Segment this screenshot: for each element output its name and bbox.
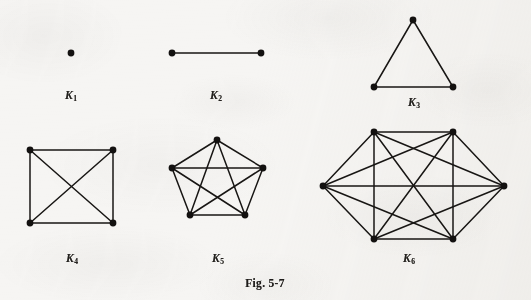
graph-vertex (27, 147, 34, 154)
graph-vertex (27, 220, 34, 227)
graph-label-subscript: 1 (73, 94, 77, 103)
complete-graph-k3-edges (374, 20, 453, 87)
graph-edge (374, 20, 413, 87)
graph-vertex (110, 220, 117, 227)
complete-graph-k1-label: K1 (65, 89, 77, 101)
graph-edge (172, 140, 217, 168)
complete-graph-k5 (169, 137, 267, 219)
graph-vertex (371, 236, 378, 243)
graph-edge (453, 132, 504, 186)
complete-graph-k5-vertices (169, 137, 267, 219)
complete-graph-k6-edges (323, 132, 504, 239)
graph-label-letter: K (212, 252, 220, 264)
complete-graph-k3-vertices (371, 17, 457, 91)
graph-vertex (187, 212, 194, 219)
complete-graph-k4 (27, 147, 117, 227)
graph-vertex (450, 84, 457, 91)
graph-edge (172, 168, 245, 215)
graph-edge (413, 20, 453, 87)
complete-graph-k5-label: K5 (212, 252, 224, 264)
graph-vertex (110, 147, 117, 154)
complete-graph-k6 (320, 129, 508, 243)
graph-edge (190, 140, 217, 215)
graph-vertex (169, 50, 176, 57)
graph-vertex (371, 84, 378, 91)
graph-label-subscript: 5 (220, 257, 224, 266)
graph-label-letter: K (65, 89, 73, 101)
graph-edge (323, 132, 374, 186)
graph-edge (323, 186, 374, 239)
graph-vertex (450, 236, 457, 243)
graph-label-subscript: 2 (218, 94, 222, 103)
graph-vertex (320, 183, 327, 190)
graph-label-subscript: 4 (74, 257, 78, 266)
graph-vertex (371, 129, 378, 136)
graph-vertex (410, 17, 417, 24)
graph-label-subscript: 3 (416, 101, 420, 110)
complete-graph-k1-vertices (68, 50, 75, 57)
complete-graph-k1 (68, 50, 75, 57)
figure-canvas (0, 0, 531, 300)
graph-vertex (260, 165, 267, 172)
graph-vertex (242, 212, 249, 219)
graph-vertex (169, 165, 176, 172)
complete-graph-k5-edges (172, 140, 263, 215)
complete-graph-k3-label: K3 (408, 96, 420, 108)
graph-edge (172, 168, 190, 215)
graph-vertex (68, 50, 75, 57)
complete-graph-k2-label: K2 (210, 89, 222, 101)
complete-graph-k6-label: K6 (403, 252, 415, 264)
graph-vertex (450, 129, 457, 136)
graph-label-letter: K (66, 252, 74, 264)
graph-edge (217, 140, 263, 168)
figure-caption: Fig. 5-7 (245, 277, 284, 289)
complete-graph-k4-edges (30, 150, 113, 223)
graph-edge (190, 168, 263, 215)
complete-graph-k2 (169, 50, 265, 57)
graph-label-letter: K (210, 89, 218, 101)
graph-edge (453, 186, 504, 239)
graph-vertex (214, 137, 221, 144)
graph-edge (217, 140, 245, 215)
graph-label-subscript: 6 (411, 257, 415, 266)
complete-graph-k3 (371, 17, 457, 91)
graph-vertex (501, 183, 508, 190)
graph-label-letter: K (403, 252, 411, 264)
graph-edge (245, 168, 263, 215)
graph-label-letter: K (408, 96, 416, 108)
figure-page: K1K2K3K4K5K6 Fig. 5-7 (0, 0, 531, 300)
graph-vertex (258, 50, 265, 57)
complete-graph-k4-label: K4 (66, 252, 78, 264)
